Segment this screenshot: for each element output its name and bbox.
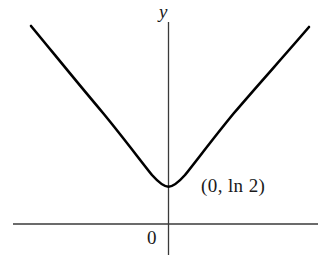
vertex-point-label: (0, ln 2) bbox=[201, 176, 265, 195]
origin-label: 0 bbox=[147, 228, 157, 247]
plot-canvas bbox=[0, 0, 325, 255]
data-curve-group bbox=[31, 26, 309, 187]
y-axis-label: y bbox=[159, 2, 167, 21]
axes-group bbox=[13, 22, 318, 255]
function-curve bbox=[31, 26, 309, 187]
math-figure: y 0 (0, ln 2) bbox=[0, 0, 325, 255]
